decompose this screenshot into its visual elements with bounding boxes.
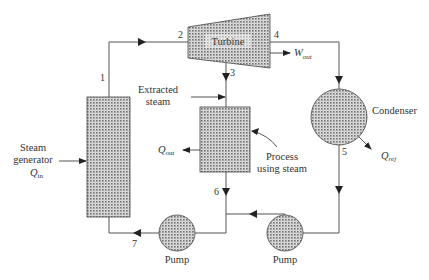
steam-generator-label-2: generator [13,154,53,165]
heat-out-label: Qout [158,144,175,157]
flow-arrow-icon [222,73,230,81]
steam-generator-label-1: Steam [20,142,46,153]
turbine-label: Turbine [212,36,245,47]
state-1: 1 [100,72,105,83]
state-2: 2 [178,29,183,40]
flow-arrow-icon [249,210,257,218]
heat-in-label: Qin [30,167,44,180]
extracted-steam-label-1: Extracted [138,84,179,95]
work-out-label: Wout [294,47,313,61]
process-label-2: using steam [257,163,307,174]
pipe-5-pump [303,145,339,233]
pump-right [267,215,303,251]
flow-arrow-icon [335,186,343,194]
pointer-arrow-icon [251,128,259,135]
state-6: 6 [214,186,219,197]
process-heater [200,107,250,172]
pipe-6-pump [195,172,226,233]
state-5: 5 [342,146,347,157]
heat-rejected-label: Qrej [381,150,396,163]
pump-left-label: Pump [165,254,190,265]
flow-arrow-icon [133,229,141,237]
state-3: 3 [230,67,235,78]
flow-arrow-icon [222,188,230,196]
condenser-label: Condenser [372,105,417,116]
state-4: 4 [274,29,279,40]
flow-arrow-icon [335,76,343,84]
steam-generator [87,97,130,217]
state-7: 7 [132,238,137,249]
pump-left [159,215,195,251]
pipe-4-condenser [270,42,339,89]
pipe-7-generator [109,217,159,233]
condenser [311,89,367,145]
cogeneration-diagram: Turbine Wout Extracted steam Qout Proces… [0,0,429,280]
heat-rejected-arrow-icon [358,136,371,149]
process-label-1: Process [266,151,298,162]
pump-right-label: Pump [273,254,298,265]
flow-arrow-icon [138,38,146,46]
extracted-steam-label-2: steam [146,96,171,107]
